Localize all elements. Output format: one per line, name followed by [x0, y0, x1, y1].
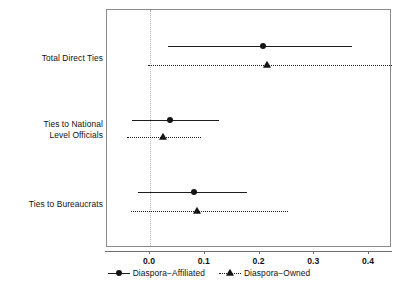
x-axis-tick-label-1: 0.1: [198, 256, 210, 266]
legend-label-diaspora-owned: Diaspora−Owned: [244, 268, 310, 278]
x-axis-tick-0: [149, 251, 150, 254]
point-marker-ties-bureaucrats-diaspora-owned: [193, 207, 201, 214]
legend-entry-diaspora-affiliated: Diaspora−Affiliated: [108, 268, 205, 278]
ci-line-ties-bureaucrats-diaspora-owned: [131, 211, 288, 212]
legend-dotted-triangle-icon: [219, 269, 241, 278]
x-axis-tick-label-0: 0.0: [143, 256, 155, 266]
ci-line-ties-national-diaspora-affiliated: [132, 120, 219, 121]
point-marker-ties-bureaucrats-diaspora-affiliated: [191, 189, 197, 195]
legend-solid-circle-icon: [108, 269, 130, 278]
x-axis: 0.0 0.1 0.2 0.3 0.4: [106, 247, 391, 248]
plot-area: [106, 9, 391, 247]
chart-legend: Diaspora−Affiliated Diaspora−Owned: [0, 268, 418, 278]
x-axis-tick-2: [259, 251, 260, 254]
x-axis-tick-4: [368, 251, 369, 254]
point-marker-total-direct-ties-diaspora-owned: [263, 61, 271, 68]
category-label-ties-to-bureaucrats: Ties to Bureaucrats: [29, 199, 103, 210]
x-axis-tick-label-3: 0.3: [307, 256, 319, 266]
category-label-ties-to-national-level-officials: Ties to National Level Officials: [44, 119, 103, 140]
legend-label-diaspora-affiliated: Diaspora−Affiliated: [133, 268, 205, 278]
point-marker-total-direct-ties-diaspora-affiliated: [260, 43, 266, 49]
x-axis-tick-1: [204, 251, 205, 254]
x-axis-tick-label-2: 0.2: [253, 256, 265, 266]
x-axis-tick-3: [313, 251, 314, 254]
point-marker-ties-national-diaspora-owned: [159, 133, 167, 140]
legend-entry-diaspora-owned: Diaspora−Owned: [219, 268, 310, 278]
category-label-total-direct-ties: Total Direct Ties: [42, 53, 103, 64]
x-axis-tick-label-4: 0.4: [362, 256, 374, 266]
point-marker-ties-national-diaspora-affiliated: [167, 117, 173, 123]
coefficient-plot-figure: Total Direct Ties Ties to National Level…: [0, 0, 418, 295]
